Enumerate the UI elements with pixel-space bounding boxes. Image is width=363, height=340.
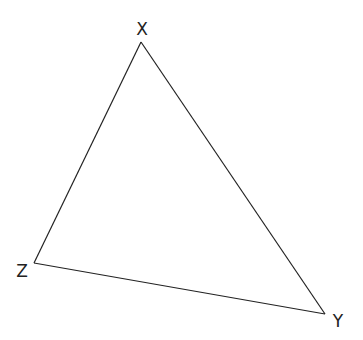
edge-z-x	[34, 42, 141, 263]
vertex-label-x: X	[136, 19, 148, 39]
vertex-label-y: Y	[332, 311, 344, 331]
vertex-label-z: Z	[16, 261, 28, 281]
edge-y-z	[34, 263, 325, 314]
triangle-diagram: X Y Z	[0, 0, 363, 340]
edge-x-y	[141, 42, 325, 314]
